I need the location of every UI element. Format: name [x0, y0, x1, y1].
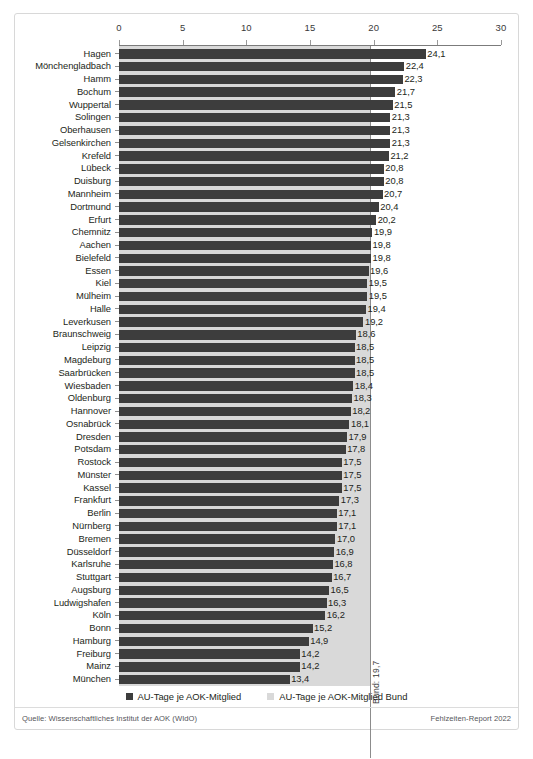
chart-row: Stuttgart16,7 [15, 571, 518, 584]
bar-value-label: 15,2 [314, 622, 332, 635]
bar-value-label: 21,3 [392, 137, 410, 150]
bar-value-label: 20,7 [384, 188, 402, 201]
category-label: Dresden [76, 431, 111, 444]
chart-row: Karlsruhe16,8 [15, 558, 518, 571]
bar-value-label: 21,3 [392, 124, 410, 137]
category-label: Nürnberg [72, 520, 111, 533]
bar-value-label: 19,4 [368, 303, 386, 316]
bar-value-label: 19,8 [373, 239, 391, 252]
bar-value-label: 17,5 [343, 482, 361, 495]
plot-area: Bund: 19,7 Hagen24,1Mönchengladbach22,4H… [15, 46, 518, 729]
bar-value-label: 17,5 [343, 469, 361, 482]
x-axis-tick-label: 30 [496, 22, 507, 33]
bar-value-label: 20,4 [380, 201, 398, 214]
bar [119, 330, 356, 339]
bar [119, 547, 334, 556]
category-label: Braunschweig [53, 328, 111, 341]
chart-row: Krefeld21,2 [15, 150, 518, 163]
chart-row: Kiel19,5 [15, 277, 518, 290]
chart-row: Bochum21,7 [15, 86, 518, 99]
category-label: Krefeld [82, 150, 111, 163]
bar [119, 471, 342, 480]
bar [119, 522, 337, 531]
chart-row: Gelsenkirchen21,3 [15, 137, 518, 150]
bar [119, 407, 351, 416]
bar [119, 292, 367, 301]
bar-value-label: 14,2 [301, 660, 319, 673]
bar [119, 215, 376, 224]
bar [119, 394, 352, 403]
bar-value-label: 22,3 [404, 73, 422, 86]
bar-value-label: 19,8 [373, 252, 391, 265]
bar-value-label: 17,5 [343, 456, 361, 469]
chart-row: Wiesbaden18,4 [15, 380, 518, 393]
category-label: Solingen [75, 111, 111, 124]
bar-value-label: 19,5 [369, 290, 387, 303]
category-label: Osnabrück [66, 418, 111, 431]
x-axis-tick-mark [119, 40, 120, 45]
chart-row: Oberhausen21,3 [15, 124, 518, 137]
bar-value-label: 21,7 [397, 86, 415, 99]
bar [119, 496, 339, 505]
x-axis-tick-label: 5 [180, 22, 185, 33]
legend-item-au-tage: AU-Tage je AOK-Mitglied [126, 691, 242, 702]
bar-value-label: 16,2 [327, 609, 345, 622]
category-label: Essen [85, 265, 111, 278]
chart-row: Chemnitz19,9 [15, 226, 518, 239]
bar [119, 279, 367, 288]
bar [119, 381, 353, 390]
bar [119, 241, 371, 250]
chart-row: Hannover18,2 [15, 405, 518, 418]
category-label: München [73, 673, 111, 686]
bar [119, 87, 395, 96]
bar [119, 100, 393, 109]
category-label: Hagen [84, 48, 111, 61]
chart-row: Potsdam17,8 [15, 443, 518, 456]
category-label: Oldenburg [68, 392, 111, 405]
chart-row: Mülheim19,5 [15, 290, 518, 303]
bar [119, 126, 390, 135]
bar-value-label: 19,6 [370, 265, 388, 278]
category-label: Mainz [86, 660, 111, 673]
chart-row: Magdeburg18,5 [15, 354, 518, 367]
category-label: Aachen [80, 239, 112, 252]
chart-row: Kassel17,5 [15, 482, 518, 495]
category-label: Leverkusen [63, 316, 111, 329]
report-note: Fehlzeiten-Report 2022 [431, 714, 511, 723]
bar [119, 573, 332, 582]
bar [119, 509, 337, 518]
chart-row: Leverkusen19,2 [15, 316, 518, 329]
bar [119, 62, 404, 71]
bar-value-label: 14,9 [310, 635, 328, 648]
bar-value-label: 18,4 [355, 380, 373, 393]
category-label: Erfurt [88, 214, 111, 227]
chart-row: Frankfurt17,3 [15, 494, 518, 507]
x-axis-tick-mark [246, 40, 247, 45]
chart-row: Münster17,5 [15, 469, 518, 482]
category-label: Leipzig [82, 341, 111, 354]
bar-value-label: 18,5 [356, 341, 374, 354]
legend-item-au-tage-bund: AU-Tage je AOK-Mitglied Bund [267, 691, 407, 702]
category-label: Duisburg [74, 175, 111, 188]
bar-value-label: 18,2 [352, 405, 370, 418]
chart-row: Freiburg14,2 [15, 648, 518, 661]
x-axis-tick-label: 20 [368, 22, 379, 33]
category-label: Münster [77, 469, 111, 482]
category-label: Hamm [84, 73, 111, 86]
legend-label-au-tage-bund: AU-Tage je AOK-Mitglied Bund [279, 691, 407, 702]
x-axis-tick-label: 15 [305, 22, 316, 33]
bar-value-label: 19,5 [369, 277, 387, 290]
chart-row: Nürnberg17,1 [15, 520, 518, 533]
category-label: Dortmund [70, 201, 111, 214]
chart-row: Bremen17,0 [15, 533, 518, 546]
category-label: Gelsenkirchen [52, 137, 111, 150]
category-label: Bonn [89, 622, 111, 635]
bar-value-label: 17,0 [337, 533, 355, 546]
category-label: Potsdam [74, 443, 111, 456]
bar [119, 675, 290, 684]
category-label: Bremen [78, 533, 111, 546]
bar [119, 139, 390, 148]
bar-value-label: 16,9 [336, 546, 354, 559]
bar [119, 611, 325, 620]
chart-row: Dortmund20,4 [15, 201, 518, 214]
